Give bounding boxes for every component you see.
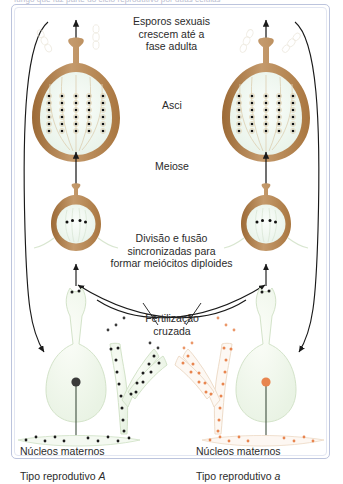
conidiophore-right	[175, 343, 232, 434]
cycle-arrow-left	[24, 22, 48, 352]
label-division-fusion: Divisão e fusão sincronizadas para forma…	[86, 232, 257, 270]
neurospora-life-cycle-figure: fungo que faz parte do ciclo reprodutivo…	[0, 0, 343, 484]
mating-type-a: a	[274, 470, 280, 482]
maternal-nucleus-left	[71, 377, 80, 386]
maternal-right-line2: Tipo reprodutivo	[196, 470, 274, 482]
mating-type-A: A	[98, 470, 105, 482]
perithecium-right	[222, 38, 310, 163]
label-cross-fertilization: Fertilização cruzada	[120, 312, 224, 337]
cycle-arrow-right	[295, 22, 319, 352]
maternal-left-line1: Núcleos maternos	[20, 445, 105, 457]
label-meiosis: Meiose	[140, 160, 204, 173]
maternal-left-line2: Tipo reprodutivo	[20, 470, 98, 482]
label-sexual-spores: Esporos sexuais crescem até a fase adult…	[103, 15, 240, 53]
label-asci: Asci	[140, 99, 204, 112]
perithecium-left	[32, 38, 120, 163]
maternal-right-line1: Núcleos maternos	[196, 445, 281, 457]
label-maternal-nuclei-A: Núcleos maternos Tipo reprodutivo A	[20, 432, 170, 482]
label-maternal-nuclei-a: Núcleos maternos Tipo reprodutivo a	[196, 432, 343, 482]
maternal-nucleus-right	[261, 377, 270, 386]
